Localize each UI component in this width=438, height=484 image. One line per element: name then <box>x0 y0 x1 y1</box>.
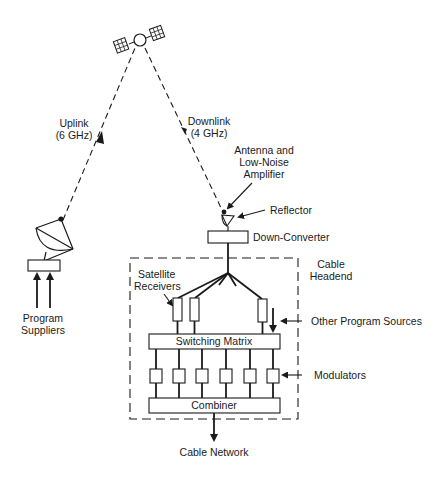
program-suppliers-label-1: Program <box>23 312 64 324</box>
modulators-label: Modulators <box>314 369 366 381</box>
uplink-label-1: Uplink <box>59 117 89 129</box>
downlink-label-2: (4 GHz) <box>191 127 228 139</box>
modulator-box-5 <box>244 369 256 383</box>
program-suppliers-label-2: Suppliers <box>21 324 65 336</box>
reflector-pointer-arrow <box>239 210 265 217</box>
modulators-group <box>150 349 279 398</box>
headend-label-2: Headend <box>310 270 353 282</box>
modulator-box-4 <box>220 369 232 383</box>
modulator-box-2 <box>173 369 185 383</box>
receiver-box-1 <box>173 298 182 321</box>
modulator-box-6 <box>267 369 279 383</box>
receiver-box-2 <box>190 298 199 321</box>
satellite-cable-diagram: Uplink (6 GHz) Downlink (4 GHz) Program … <box>0 0 438 484</box>
switching-matrix-label: Switching Matrix <box>176 335 253 347</box>
antenna-pointer-arrow <box>228 183 252 208</box>
down-converter-box <box>208 231 248 243</box>
splitter-lines <box>178 273 262 299</box>
receive-dish-icon <box>222 210 234 231</box>
antenna-label-1: Antenna and <box>234 144 294 156</box>
downlink-arrow-icon <box>181 127 187 134</box>
downlink-label-1: Downlink <box>188 115 231 127</box>
down-converter-label: Down-Converter <box>253 231 330 243</box>
headend-label-1: Cable <box>317 258 345 270</box>
combiner-label: Combiner <box>191 399 237 411</box>
uplink-label-2: (6 GHz) <box>56 129 93 141</box>
modulator-box-1 <box>150 369 162 383</box>
satellite-icon <box>113 25 164 53</box>
modulator-box-3 <box>196 369 208 383</box>
antenna-label-2: Low-Noise <box>239 156 289 168</box>
receiver-box-3 <box>258 299 267 322</box>
uplink-transmitter-box <box>28 260 60 271</box>
receivers-label-1: Satellite <box>138 268 176 280</box>
receivers-pointer-arrow <box>164 294 172 305</box>
antenna-label-3: Amplifier <box>244 168 285 180</box>
uplink-dish-icon <box>36 216 73 261</box>
receivers-label-2: Receivers <box>134 280 181 292</box>
other-sources-label: Other Program Sources <box>311 315 422 327</box>
cable-network-label: Cable Network <box>180 446 250 458</box>
reflector-label: Reflector <box>270 204 313 216</box>
